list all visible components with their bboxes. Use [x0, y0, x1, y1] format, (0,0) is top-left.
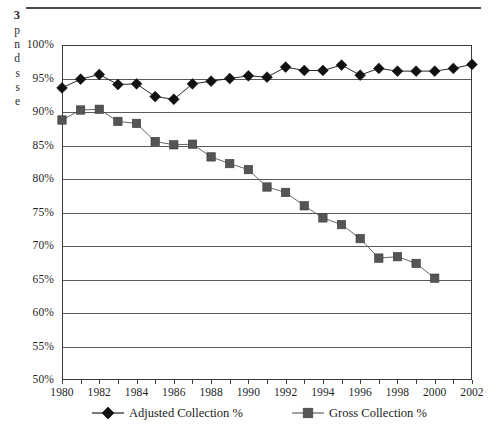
y-axis-tick-label: 85%: [0, 140, 54, 152]
y-axis-tick-label: 95%: [0, 73, 54, 85]
x-axis-tick-label: 1992: [266, 386, 306, 398]
gridline: [63, 246, 471, 247]
x-axis-tick: [267, 380, 268, 384]
x-axis-tick: [174, 380, 175, 384]
x-axis-tick: [472, 380, 473, 384]
gridline: [63, 146, 471, 147]
y-axis-tick-label: 55%: [0, 341, 54, 353]
y-axis-tick-label: 80%: [0, 173, 54, 185]
y-axis-tick-label: 90%: [0, 106, 54, 118]
x-axis-tick-label: 1984: [117, 386, 157, 398]
x-axis-tick: [248, 380, 249, 384]
y-axis-tick-label: 75%: [0, 207, 54, 219]
x-axis-tick: [81, 380, 82, 384]
x-axis-tick-label: 2000: [415, 386, 455, 398]
x-axis-tick: [118, 380, 119, 384]
gridline: [63, 112, 471, 113]
y-axis-tick-label: 60%: [0, 307, 54, 319]
x-axis-tick: [99, 380, 100, 384]
legend-item-adjusted[interactable]: Adjusted Collection %: [92, 404, 243, 422]
x-axis-tick: [286, 380, 287, 384]
x-axis-tick-label: 1994: [303, 386, 343, 398]
gridline: [63, 79, 471, 80]
x-axis-tick: [230, 380, 231, 384]
plot-area: [62, 45, 472, 380]
square-marker-icon: [292, 405, 324, 421]
legend-item-gross[interactable]: Gross Collection %: [292, 404, 427, 422]
gridline: [63, 313, 471, 314]
x-axis-tick: [435, 380, 436, 384]
legend-label: Adjusted Collection %: [129, 406, 243, 421]
chart-legend: Adjusted Collection %Gross Collection %: [62, 404, 472, 424]
gridline: [63, 179, 471, 180]
gridline: [63, 280, 471, 281]
y-axis-tick-label: 65%: [0, 274, 54, 286]
x-axis-tick: [62, 380, 63, 384]
diamond-marker-icon: [92, 405, 124, 421]
x-axis-tick: [416, 380, 417, 384]
x-axis-tick-label: 1980: [42, 386, 82, 398]
y-axis-tick-label: 100%: [0, 39, 54, 51]
x-axis-tick: [342, 380, 343, 384]
x-axis-tick: [453, 380, 454, 384]
y-axis-tick-label: 70%: [0, 240, 54, 252]
x-axis-tick-label: 1982: [79, 386, 119, 398]
x-axis-tick: [137, 380, 138, 384]
x-axis-tick: [323, 380, 324, 384]
x-axis-tick: [304, 380, 305, 384]
x-axis-tick: [155, 380, 156, 384]
x-axis-tick: [360, 380, 361, 384]
x-axis-tick: [379, 380, 380, 384]
gridline: [63, 213, 471, 214]
x-axis-tick-label: 1990: [228, 386, 268, 398]
legend-label: Gross Collection %: [329, 406, 427, 421]
x-axis-tick: [211, 380, 212, 384]
x-axis-tick-label: 1988: [191, 386, 231, 398]
x-axis-tick-label: 1998: [377, 386, 417, 398]
x-axis-tick: [397, 380, 398, 384]
y-axis-tick-label: 50%: [0, 374, 54, 386]
gridline: [63, 347, 471, 348]
x-axis-tick: [192, 380, 193, 384]
x-axis-tick-label: 2002: [452, 386, 488, 398]
x-axis-tick-label: 1996: [340, 386, 380, 398]
x-axis-tick-label: 1986: [154, 386, 194, 398]
